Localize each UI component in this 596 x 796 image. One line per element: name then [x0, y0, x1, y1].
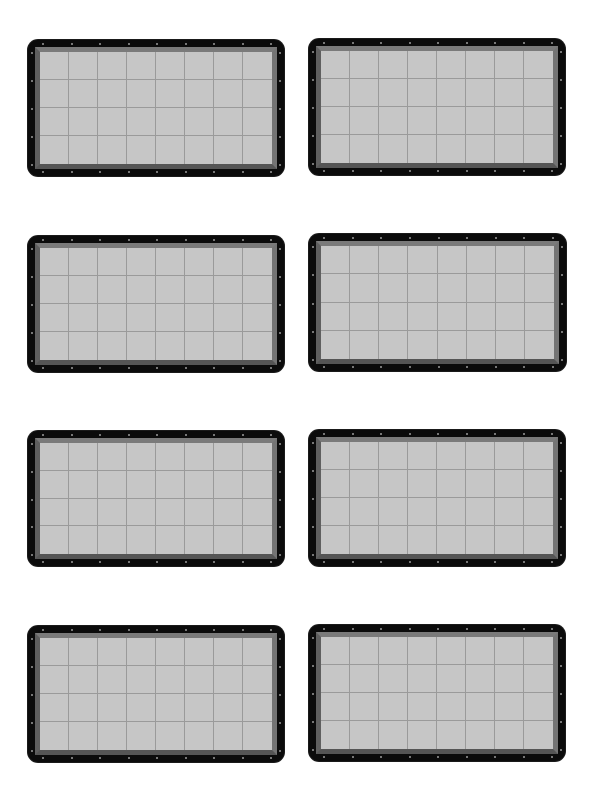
grommet-icon — [279, 164, 281, 166]
grid-cell — [69, 666, 98, 694]
grid-cell — [496, 274, 525, 302]
grid-cell — [127, 526, 156, 554]
grid-panel — [309, 39, 565, 175]
panel-bevel — [316, 241, 559, 364]
grid-panel — [28, 236, 284, 372]
grommet-icon — [323, 628, 325, 630]
grommet-icon — [323, 433, 325, 435]
grid-cell — [525, 303, 554, 331]
grommet-icon — [270, 43, 272, 45]
grid-cell — [127, 471, 156, 499]
grid-cell — [408, 665, 437, 693]
grommet-icon — [279, 554, 281, 556]
grid-cell — [156, 638, 185, 666]
grommet-icon — [213, 171, 215, 173]
grid-cell — [408, 107, 437, 135]
grommet-icon — [31, 666, 33, 668]
grid-cell — [40, 694, 69, 722]
grommet-icon — [71, 239, 73, 241]
grommet-icon — [495, 237, 497, 239]
grommet-icon — [31, 164, 33, 166]
grid-cell — [408, 51, 437, 79]
grommet-icon — [438, 237, 440, 239]
grid-cell — [496, 246, 525, 274]
grid-cell — [495, 135, 524, 163]
grid-cell — [350, 246, 379, 274]
grid-cell — [467, 331, 496, 359]
grid-cell — [40, 638, 69, 666]
grid-cell — [243, 52, 272, 80]
grid-cell — [408, 637, 437, 665]
grid-cell — [438, 274, 467, 302]
grid-panel — [309, 625, 565, 761]
grid-field — [321, 442, 553, 554]
grommet-icon — [312, 693, 314, 695]
grommet-icon — [523, 628, 525, 630]
grommet-icon — [466, 756, 468, 758]
grid-cell — [98, 443, 127, 471]
grid-cell — [321, 274, 350, 302]
grid-cell — [379, 51, 408, 79]
grid-cell — [524, 135, 553, 163]
grid-cell — [524, 51, 553, 79]
grid-cell — [495, 693, 524, 721]
grid-cell — [243, 694, 272, 722]
grid-cell — [98, 526, 127, 554]
grommet-icon — [31, 304, 33, 306]
grid-cell — [437, 107, 466, 135]
grid-cell — [214, 136, 243, 164]
grid-cell — [524, 442, 553, 470]
grommet-icon — [560, 470, 562, 472]
grid-cell — [156, 443, 185, 471]
grommet-icon — [71, 367, 73, 369]
grommet-icon — [437, 42, 439, 44]
grid-cell — [321, 107, 350, 135]
grommet-icon — [466, 237, 468, 239]
grid-cell — [98, 666, 127, 694]
grommet-icon — [312, 303, 314, 305]
grommet-icon — [185, 561, 187, 563]
grid-cell — [350, 51, 379, 79]
grid-cell — [350, 498, 379, 526]
grommet-icon — [185, 239, 187, 241]
grommet-icon — [312, 554, 314, 556]
panel-bevel — [316, 46, 558, 168]
grid-cell — [437, 442, 466, 470]
grid-cell — [69, 499, 98, 527]
grid-cell — [437, 693, 466, 721]
panel-bevel — [316, 437, 558, 559]
grommet-icon — [494, 433, 496, 435]
grid-cell — [214, 108, 243, 136]
grommet-icon — [213, 629, 215, 631]
grommet-icon — [242, 367, 244, 369]
grid-cell — [379, 107, 408, 135]
grommet-icon — [494, 628, 496, 630]
grommet-icon — [438, 366, 440, 368]
grid-cell — [495, 721, 524, 749]
grommet-icon — [279, 304, 281, 306]
grid-cell — [243, 276, 272, 304]
grid-cell — [98, 722, 127, 750]
grid-cell — [495, 498, 524, 526]
grommet-icon — [270, 367, 272, 369]
grommet-icon — [560, 637, 562, 639]
grid-cell — [69, 526, 98, 554]
grommet-icon — [279, 666, 281, 668]
grid-cell — [495, 470, 524, 498]
grommet-icon — [312, 637, 314, 639]
grid-cell — [185, 471, 214, 499]
grommet-icon — [99, 43, 101, 45]
grommet-icon — [213, 561, 215, 563]
grommet-icon — [270, 629, 272, 631]
grommet-icon — [242, 239, 244, 241]
grid-cell — [40, 471, 69, 499]
grommet-icon — [242, 434, 244, 436]
grid-cell — [466, 51, 495, 79]
grommet-icon — [560, 135, 562, 137]
grid-cell — [524, 107, 553, 135]
grommet-icon — [270, 757, 272, 759]
grid-cell — [243, 332, 272, 360]
grid-cell — [185, 304, 214, 332]
grid-cell — [379, 79, 408, 107]
grid-cell — [466, 526, 495, 554]
